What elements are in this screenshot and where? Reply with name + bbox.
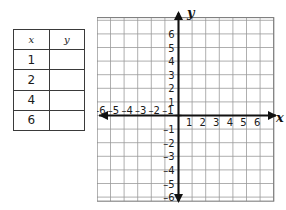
cell-y-0[interactable] (49, 50, 85, 70)
cell-y-3[interactable] (49, 110, 85, 130)
x-tick-label: –3 (135, 105, 146, 116)
cell-x-3: 6 (14, 110, 50, 130)
x-tick-label: –5 (108, 105, 119, 116)
y-tick-label: 5 (168, 43, 174, 54)
graph-svg: x y –6–5–4–3–2–1123456123456–6–5–4–3–2–1 (97, 4, 285, 206)
x-tick-label: 5 (240, 117, 246, 128)
coordinate-grid: x y –6–5–4–3–2–1123456123456–6–5–4–3–2–1 (97, 4, 285, 206)
y-tick-label: 6 (168, 29, 174, 40)
cell-y-1[interactable] (49, 70, 85, 90)
y-tick-label: –4 (163, 165, 174, 176)
y-axis-up-arrow-icon (174, 11, 183, 20)
y-tick-label: 3 (168, 70, 174, 81)
table-row: 6 (14, 110, 85, 130)
y-tick-label: –5 (163, 179, 174, 190)
x-tick-label: –4 (121, 105, 132, 116)
cell-x-1: 2 (14, 70, 50, 90)
x-axis-label: x (275, 110, 284, 125)
y-tick-label: 4 (168, 56, 174, 67)
table-row: 2 (14, 70, 85, 90)
table-row: 4 (14, 90, 85, 110)
y-axis-label: y (186, 5, 196, 20)
y-tick-label: 1 (168, 97, 174, 108)
y-tick-label: –2 (163, 138, 174, 149)
x-tick-label: –6 (97, 105, 106, 116)
x-tick-label: 1 (186, 117, 192, 128)
input-output-table: x y 1 2 4 6 (13, 29, 85, 131)
x-tick-label: –2 (149, 105, 160, 116)
table-header-row: x y (14, 30, 85, 50)
table-header-x: x (14, 30, 50, 50)
y-tick-label: 2 (168, 83, 174, 94)
x-tick-label: 4 (227, 117, 233, 128)
x-tick-label: 3 (213, 117, 219, 128)
cell-x-2: 4 (14, 90, 50, 110)
table-header-y: y (49, 30, 85, 50)
x-tick-label: 2 (200, 117, 206, 128)
y-tick-label: –6 (163, 192, 174, 203)
y-tick-label: –3 (163, 151, 174, 162)
table-row: 1 (14, 50, 85, 70)
x-tick-label: 6 (254, 117, 260, 128)
cell-x-0: 1 (14, 50, 50, 70)
cell-y-2[interactable] (49, 90, 85, 110)
y-tick-label: –1 (163, 124, 174, 135)
